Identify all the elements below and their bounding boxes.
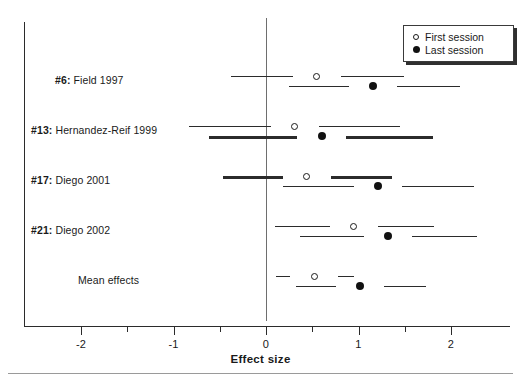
ci-right-first-session-row-1 (319, 126, 400, 127)
row-name-hernandez-reif-1999: Hernandez-Reif 1999 (55, 124, 157, 136)
marker-first-session-row-3 (350, 223, 357, 230)
ci-right-last-session-row-1 (346, 136, 433, 139)
ci-left-last-session-row-1 (209, 136, 298, 139)
x-tick-label-3: 1 (355, 338, 361, 350)
ci-left-first-session-row-3 (275, 226, 330, 227)
marker-first-session-row-0 (313, 73, 320, 80)
ci-right-first-session-row-2 (331, 176, 392, 179)
marker-first-session-row-2 (303, 173, 310, 180)
marker-last-session-row-0 (369, 82, 377, 90)
x-tick-2 (451, 327, 452, 335)
row-id-13: #13: (31, 124, 52, 136)
ci-right-last-session-row-3 (412, 236, 477, 237)
ci-left-last-session-row-3 (300, 236, 364, 237)
row-label-field-1997: #6: Field 1997 (55, 74, 124, 86)
plot-area: -2-1012 #6: Field 1997 #13: Hernandez-Re… (0, 0, 521, 340)
x-tick-label-0: -2 (76, 338, 86, 350)
x-tick-minor (127, 327, 128, 332)
x-tick-neg1 (174, 327, 175, 335)
legend-label-last-session: Last session (425, 44, 483, 56)
row-label-mean-effects: Mean effects (78, 274, 139, 286)
x-tick-label-1: -1 (168, 338, 178, 350)
ci-right-last-session-row-2 (402, 186, 474, 187)
marker-last-session-row-3 (384, 232, 392, 240)
legend-label-first-session: First session (425, 31, 484, 43)
x-tick-neg2 (81, 327, 82, 335)
ci-left-first-session-row-2 (223, 176, 283, 179)
row-id-21: #21: (31, 224, 52, 236)
x-tick-label-4: 2 (448, 338, 454, 350)
y-axis-spine (24, 22, 25, 327)
x-tick-1 (359, 327, 360, 335)
marker-first-session-row-1 (291, 123, 298, 130)
filled-circle-icon (410, 46, 422, 53)
row-name-diego-2002: Diego 2002 (55, 224, 110, 236)
ci-left-last-session-row-4 (296, 286, 337, 287)
legend-item-last-session: Last session (410, 43, 507, 56)
row-label-diego-2002: #21: Diego 2002 (31, 224, 110, 236)
x-tick-minor (405, 327, 406, 332)
open-circle-icon (410, 34, 422, 40)
row-id-17: #17: (31, 174, 52, 186)
ci-left-last-session-row-2 (283, 186, 354, 187)
marker-first-session-row-4 (311, 273, 318, 280)
zero-reference-line (266, 18, 267, 321)
row-name-mean-effects: Mean effects (78, 274, 139, 286)
row-label-diego-2001: #17: Diego 2001 (31, 174, 110, 186)
forest-plot-figure: -2-1012 #6: Field 1997 #13: Hernandez-Re… (0, 0, 521, 379)
ci-right-first-session-row-0 (341, 76, 404, 77)
x-axis-title: Effect size (0, 353, 521, 365)
ci-right-last-session-row-4 (384, 286, 426, 287)
marker-last-session-row-1 (318, 132, 326, 140)
ci-left-last-session-row-0 (289, 86, 349, 87)
bottom-divider (8, 373, 513, 374)
row-name-diego-2001: Diego 2001 (55, 174, 110, 186)
x-tick-label-2: 0 (263, 338, 269, 350)
marker-last-session-row-4 (356, 282, 364, 290)
row-label-hernandez-reif-1999: #13: Hernandez-Reif 1999 (31, 124, 157, 136)
legend-item-first-session: First session (410, 30, 507, 43)
row-name-field-1997: Field 1997 (74, 74, 124, 86)
ci-right-first-session-row-4 (338, 276, 354, 277)
ci-right-last-session-row-0 (397, 86, 460, 87)
ci-left-first-session-row-4 (276, 276, 290, 277)
marker-last-session-row-2 (374, 182, 382, 190)
x-tick-0 (266, 327, 267, 335)
ci-right-first-session-row-3 (378, 226, 434, 227)
x-axis-spine (24, 326, 510, 327)
ci-left-first-session-row-1 (189, 126, 270, 127)
ci-left-first-session-row-0 (231, 76, 293, 77)
x-tick-minor (312, 327, 313, 332)
x-tick-minor (220, 327, 221, 332)
legend-box: First session Last session (403, 25, 514, 62)
row-id-6: #6: (55, 74, 70, 86)
